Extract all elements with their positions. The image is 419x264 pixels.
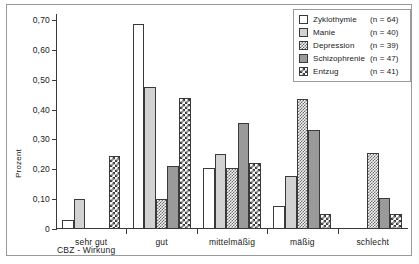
bar-depression-1 [156,199,168,229]
x-axis-tick [126,229,127,234]
bar-manie-2 [215,154,227,229]
legend-count-zyklothymie: (n = 64) [370,15,399,24]
bar-entzug-2 [249,163,261,229]
x-axis-category-label: mittelmäßig [209,237,255,247]
y-axis-tick-label: 0,30 [33,134,50,144]
bar-depression-4 [367,153,379,229]
bar-zyklothymie-2 [203,168,215,229]
bar-entzug-0 [109,156,121,229]
legend-item-depression: Depression (n = 39) [299,39,407,52]
y-axis-tick-label: 0,60 [33,45,50,55]
legend-count-schizophrenie: (n = 47) [370,54,399,63]
legend-label-schizophrenie: Schizophrenie [313,54,370,63]
x-axis-category-label: schlecht [356,237,389,247]
x-axis-tick [197,229,198,234]
bar-schizophrenie-3 [308,130,320,229]
bar-schizophrenie-4 [379,198,391,229]
bar-entzug-4 [390,214,402,229]
chart-legend: Zyklothymie (n = 64) Manie (n = 40) Depr… [293,9,411,82]
legend-item-schizophrenie: Schizophrenie (n = 47) [299,52,407,65]
bar-depression-2 [226,168,238,229]
legend-label-zyklothymie: Zyklothymie [313,15,370,24]
y-axis-tick-label: 0,70 [33,15,50,25]
y-axis-title: Prozent [14,149,23,178]
x-axis-category-label: mäßig [290,237,315,247]
legend-item-manie: Manie (n = 40) [299,26,407,39]
bar-entzug-1 [179,98,191,229]
bar-schizophrenie-2 [238,123,250,229]
y-axis-line [56,14,57,229]
legend-label-depression: Depression [313,41,370,50]
bar-depression-3 [297,99,309,229]
y-axis-tick-label: 0,40 [33,105,50,115]
bar-zyklothymie-3 [273,206,285,229]
y-axis-tick-label: 0 [45,224,50,234]
legend-label-manie: Manie [313,28,370,37]
x-axis-tick [267,229,268,234]
x-axis-category-label: sehr gut [75,237,107,247]
legend-swatch-icon-depression [299,41,308,50]
legend-item-zyklothymie: Zyklothymie (n = 64) [299,13,407,26]
x-axis-category-label: gut [155,237,167,247]
y-axis-tick [52,50,57,51]
y-axis-tick [52,199,57,200]
bar-manie-1 [144,87,156,229]
legend-swatch-icon-schizophrenie [299,54,308,63]
legend-swatch-icon-zyklothymie [299,15,308,24]
y-axis-tick [52,20,57,21]
legend-count-depression: (n = 39) [370,41,399,50]
bar-zyklothymie-1 [133,24,145,229]
bar-zyklothymie-0 [62,220,74,229]
legend-count-entzug: (n = 41) [370,67,399,76]
y-axis-tick-label: 0,10 [33,194,50,204]
legend-count-manie: (n = 40) [370,28,399,37]
y-axis-tick [52,229,57,230]
legend-item-entzug: Entzug (n = 41) [299,65,407,78]
legend-swatch-icon-entzug [299,67,308,76]
legend-label-entzug: Entzug [313,67,370,76]
chart-figure: Prozent CBZ - Wirkung 00,100,200,300,400… [0,0,419,264]
y-axis-tick [52,80,57,81]
legend-swatch-icon-manie [299,28,308,37]
x-axis-tick [338,229,339,234]
bar-schizophrenie-1 [167,166,179,229]
bar-entzug-3 [320,214,332,229]
bar-manie-3 [285,176,297,229]
y-axis-tick [52,110,57,111]
y-axis-tick-label: 0,50 [33,75,50,85]
y-axis-tick-label: 0,20 [33,164,50,174]
y-axis-tick [52,139,57,140]
bar-manie-0 [74,199,86,229]
y-axis-tick [52,169,57,170]
